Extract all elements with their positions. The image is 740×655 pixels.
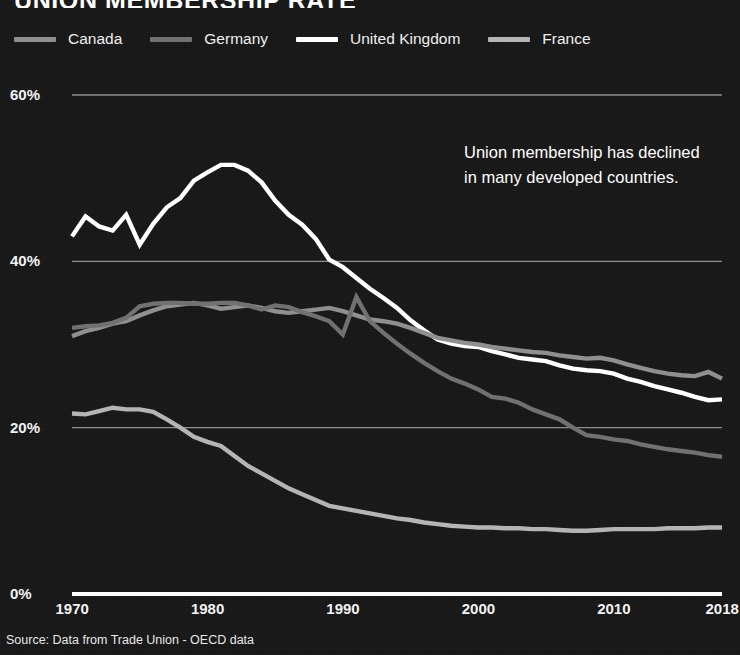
- y-axis-tick-label: 60%: [10, 86, 62, 103]
- x-axis-tick-label: 2010: [597, 600, 630, 617]
- x-axis-tick-label: 1980: [191, 600, 224, 617]
- x-axis-tick-label: 2000: [462, 600, 495, 617]
- x-axis-tick-label: 2018: [706, 600, 739, 617]
- y-axis-tick-label: 0%: [10, 585, 62, 602]
- chart-annotation: Union membership has declined in many de…: [464, 140, 714, 190]
- y-axis-tick-label: 40%: [10, 252, 62, 269]
- x-axis-tick-label: 1970: [56, 600, 89, 617]
- y-axis-tick-label: 20%: [10, 419, 62, 436]
- series-line-canada: [72, 303, 722, 379]
- source-caption: Source: Data from Trade Union - OECD dat…: [6, 633, 254, 647]
- chart-page: UNION MEMBERSHIP RATE CanadaGermanyUnite…: [0, 0, 740, 655]
- line-chart-plot: [0, 0, 740, 655]
- x-axis-tick-label: 1990: [326, 600, 359, 617]
- series-line-france: [72, 408, 722, 531]
